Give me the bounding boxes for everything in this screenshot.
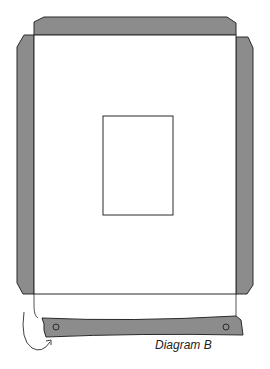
bottom-tab — [42, 316, 243, 337]
left-flap — [17, 35, 34, 294]
top-flap — [34, 17, 236, 35]
box-template-diagram — [0, 0, 270, 369]
diagram-caption: Diagram B — [155, 338, 212, 352]
right-flap — [236, 37, 253, 294]
fold-strip — [34, 294, 236, 318]
center-window — [103, 116, 173, 215]
